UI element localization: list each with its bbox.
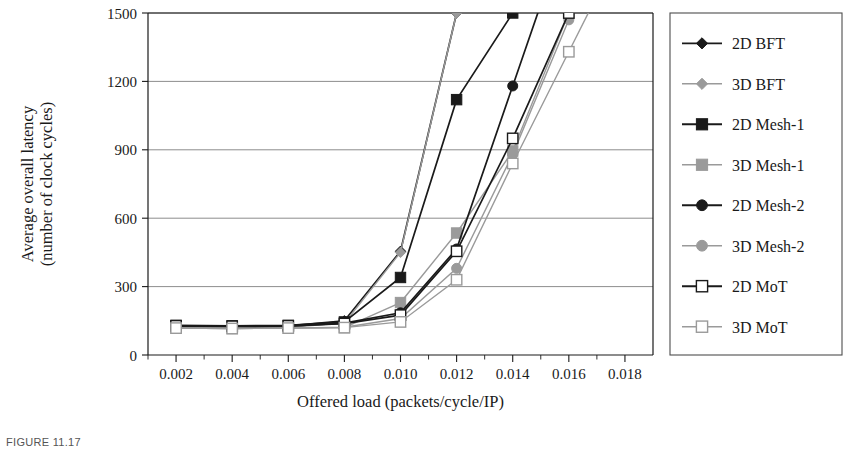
legend-marker-circle-filled bbox=[697, 200, 708, 211]
x-tick-label-0.008: 0.008 bbox=[328, 366, 362, 382]
data-point bbox=[508, 81, 518, 91]
y-tick-label-0: 0 bbox=[130, 348, 138, 364]
legend-marker-square-open bbox=[696, 281, 707, 292]
legend-label: 2D Mesh-2 bbox=[732, 197, 804, 214]
legend-label: 2D MoT bbox=[732, 278, 788, 295]
y-tick-label-900: 900 bbox=[115, 142, 138, 158]
y-tick-label-1500: 1500 bbox=[107, 6, 137, 22]
data-point bbox=[339, 322, 349, 332]
legend-label: 2D Mesh-1 bbox=[732, 116, 804, 133]
x-tick-label-0.010: 0.010 bbox=[384, 366, 418, 382]
x-tick-label-0.006: 0.006 bbox=[271, 366, 305, 382]
x-axis-title: Offered load (packets/cycle/IP) bbox=[297, 392, 504, 411]
legend-marker-square-filled bbox=[696, 159, 707, 170]
legend-label: 3D Mesh-1 bbox=[732, 157, 804, 174]
legend-label: 3D MoT bbox=[732, 319, 788, 336]
data-point bbox=[171, 323, 181, 333]
data-point bbox=[283, 323, 293, 333]
x-tick-label-0.018: 0.018 bbox=[608, 366, 642, 382]
data-point bbox=[395, 272, 405, 282]
data-point bbox=[395, 297, 405, 307]
x-axis-tick-labels: 0.0020.0040.0060.0080.0100.0120.0140.016… bbox=[159, 366, 642, 382]
data-point bbox=[395, 317, 405, 327]
y-tick-label-600: 600 bbox=[115, 211, 138, 227]
legend-border bbox=[670, 13, 842, 355]
data-point bbox=[451, 94, 461, 104]
x-tick-label-0.012: 0.012 bbox=[440, 366, 474, 382]
y-tick-label-300: 300 bbox=[115, 279, 138, 295]
figure-container: 0.0020.0040.0060.0080.0100.0120.0140.016… bbox=[0, 0, 849, 449]
data-point bbox=[227, 323, 237, 333]
y-axis-title-line1: Average overall latency bbox=[18, 105, 37, 262]
data-point bbox=[451, 246, 461, 256]
y-tick-label-1200: 1200 bbox=[107, 74, 137, 90]
legend-marker-square-open bbox=[696, 321, 707, 332]
data-point bbox=[451, 275, 461, 285]
x-tick-label-0.016: 0.016 bbox=[552, 366, 586, 382]
legend-label: 3D BFT bbox=[732, 76, 785, 93]
x-tick-label-0.014: 0.014 bbox=[496, 366, 530, 382]
latency-vs-offered-load-chart: 0.0020.0040.0060.0080.0100.0120.0140.016… bbox=[0, 0, 849, 449]
legend-label: 3D Mesh-2 bbox=[732, 238, 804, 255]
data-point bbox=[564, 47, 574, 57]
chart-legend: 2D BFT3D BFT2D Mesh-13D Mesh-12D Mesh-23… bbox=[670, 13, 842, 355]
legend-marker-circle-filled bbox=[697, 240, 708, 251]
legend-marker-square-filled bbox=[696, 119, 707, 130]
x-tick-label-0.004: 0.004 bbox=[215, 366, 249, 382]
figure-caption: FIGURE 11.17 bbox=[6, 436, 81, 448]
data-point bbox=[508, 158, 518, 168]
data-point bbox=[508, 133, 518, 143]
x-tick-label-0.002: 0.002 bbox=[159, 366, 193, 382]
legend-label: 2D BFT bbox=[732, 35, 785, 52]
y-axis-title-line2: (number of clock cycles) bbox=[37, 102, 56, 266]
